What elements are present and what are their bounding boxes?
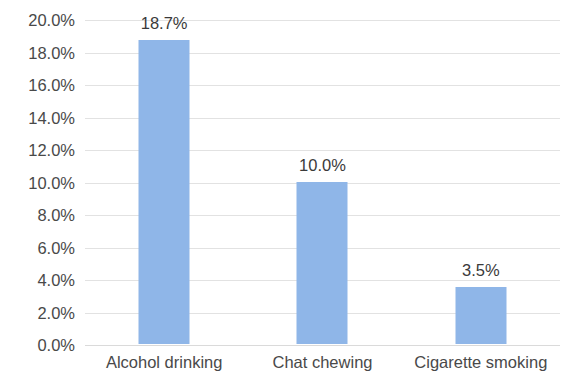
y-axis-tick-label: 20.0%: [1, 12, 75, 29]
bar-group: 18.7%: [85, 20, 243, 345]
y-axis-tick-label: 6.0%: [1, 240, 75, 257]
bar[interactable]: [455, 287, 506, 344]
x-axis-tick-label: Cigarette smoking: [414, 352, 547, 372]
x-axis-tick-label: Alcohol drinking: [106, 352, 222, 372]
y-axis-tick-label: 0.0%: [1, 337, 75, 354]
y-axis-tick-label: 14.0%: [1, 110, 75, 127]
y-axis-tick-label: 16.0%: [1, 77, 75, 94]
bars-container: 18.7%10.0%3.5%: [85, 20, 560, 345]
y-axis-tick-label: 10.0%: [1, 175, 75, 192]
gridline: [85, 345, 560, 346]
y-axis-tick-label: 2.0%: [1, 305, 75, 322]
y-axis: 20.0% 18.0% 16.0% 14.0% 12.0% 10.0% 8.0%…: [0, 0, 78, 380]
y-axis-tick-label: 8.0%: [1, 207, 75, 224]
y-axis-tick-label: 18.0%: [1, 45, 75, 62]
y-axis-tick-label: 12.0%: [1, 142, 75, 159]
bar[interactable]: [297, 182, 348, 345]
bar[interactable]: [139, 40, 190, 344]
bar-chart: 20.0% 18.0% 16.0% 14.0% 12.0% 10.0% 8.0%…: [0, 0, 564, 380]
plot-area: 18.7%10.0%3.5%: [85, 20, 560, 345]
bar-value-label: 10.0%: [299, 157, 346, 174]
x-axis-tick-label: Chat chewing: [273, 352, 373, 372]
bar-value-label: 3.5%: [462, 262, 500, 279]
bar-group: 10.0%: [243, 20, 401, 345]
bar-group: 3.5%: [402, 20, 560, 345]
y-axis-tick-label: 4.0%: [1, 272, 75, 289]
bar-value-label: 18.7%: [141, 15, 188, 32]
x-axis: Alcohol drinking Chat chewing Cigarette …: [85, 352, 560, 380]
